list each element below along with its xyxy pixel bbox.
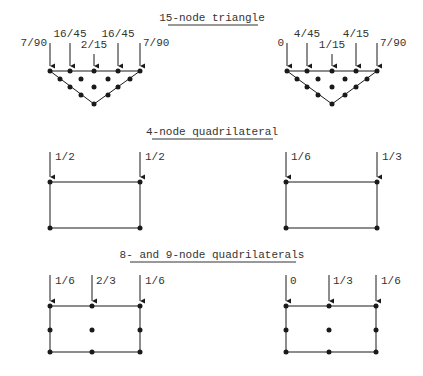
section-heading: 8- and 9-node quadrilaterals xyxy=(120,249,305,261)
triangle-left xyxy=(50,43,140,104)
load-label: 2/3 xyxy=(96,275,116,287)
load-label: 1/6 xyxy=(381,275,401,287)
load-label: 7/90 xyxy=(143,37,169,49)
load-label: 1/3 xyxy=(333,275,353,287)
quad4-right xyxy=(286,152,377,228)
load-label: 1/6 xyxy=(291,151,311,163)
load-label: 1/6 xyxy=(55,275,75,287)
load-label: 1/3 xyxy=(382,151,402,163)
triangle-left-nodes xyxy=(48,69,143,107)
section-heading: 15-node triangle xyxy=(159,12,265,24)
triangle-right-labels: 0 4/45 1/15 4/15 7/90 xyxy=(277,28,406,51)
load-label: 4/15 xyxy=(343,28,369,40)
quad4-left-nodes xyxy=(48,180,143,231)
load-label: 1/6 xyxy=(145,275,165,287)
load-label: 1/15 xyxy=(319,39,345,51)
quad4-right-nodes xyxy=(284,180,380,231)
load-label: 1/2 xyxy=(145,151,165,163)
quad9-left-nodes xyxy=(48,304,143,355)
section-title-8-9node: 8- and 9-node quadrilaterals xyxy=(120,249,305,262)
load-label: 7/90 xyxy=(21,37,47,49)
load-label: 2/15 xyxy=(81,39,107,51)
quad9-right-nodes xyxy=(284,304,379,355)
section-title-4node: 4-node quadrilateral xyxy=(146,126,278,139)
load-label: 16/45 xyxy=(101,28,134,40)
quad9-right xyxy=(286,275,376,352)
load-label: 0 xyxy=(277,37,284,49)
element-load-diagram: 15-node triangle 7/90 16/45 2/15 16/45 7… xyxy=(0,0,423,376)
section-heading: 4-node quadrilateral xyxy=(146,126,278,138)
load-label: 0 xyxy=(290,275,297,287)
triangle-left-labels: 7/90 16/45 2/15 16/45 7/90 xyxy=(21,28,170,51)
load-label: 4/45 xyxy=(294,28,320,40)
section-title-triangle: 15-node triangle xyxy=(159,12,265,25)
load-label: 7/90 xyxy=(380,37,406,49)
load-label: 1/2 xyxy=(55,151,75,163)
quad4-left xyxy=(50,152,140,228)
triangle-right-nodes xyxy=(285,69,380,107)
